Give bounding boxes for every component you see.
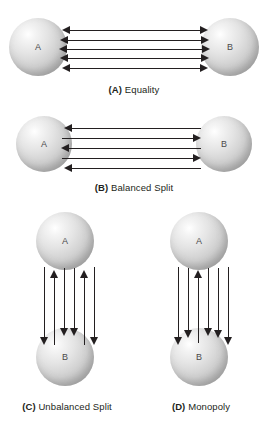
figure-root: { "figure": { "node_labels": {"a": "A", …	[0, 0, 268, 430]
arrow-shaft	[62, 158, 194, 159]
arrow-shaft	[62, 138, 194, 139]
node-b-label: B	[36, 352, 94, 362]
arrow-shaft	[67, 40, 202, 41]
panel-c-title: Unbalanced Split	[38, 401, 111, 412]
flow-arrow-a-to-b	[214, 268, 223, 338]
node-b-label: B	[196, 139, 252, 149]
arrow-shaft	[44, 267, 45, 338]
arrow-shaft	[198, 277, 199, 343]
flow-arrow-b-to-a	[64, 164, 201, 173]
panel-b: A B (B) Balanced Split	[0, 104, 268, 204]
flow-arrow-a-to-b	[40, 267, 49, 345]
panel-a-tag: (A)	[109, 84, 123, 95]
arrowhead-down-icon	[174, 337, 182, 345]
arrow-shaft	[54, 277, 55, 345]
node-a-label: A	[36, 236, 94, 246]
arrowhead-right-icon	[200, 64, 208, 72]
arrow-shaft	[228, 267, 229, 338]
panel-c-tag: (C)	[22, 401, 36, 412]
arrow-shaft	[68, 148, 201, 149]
arrowhead-down-icon	[40, 337, 48, 345]
flow-arrow-b-to-a	[194, 270, 203, 343]
arrowhead-down-icon	[70, 328, 78, 336]
arrow-shaft	[69, 68, 201, 69]
arrowhead-down-icon	[204, 328, 212, 336]
flow-arrow-a-to-b	[70, 268, 79, 336]
flow-arrow-b-to-a	[50, 270, 59, 345]
arrow-shaft	[66, 49, 203, 50]
arrowhead-down-icon	[90, 337, 98, 345]
arrow-shaft	[178, 267, 179, 338]
node-a-sphere: A	[36, 212, 94, 270]
arrow-shaft	[208, 268, 209, 329]
flow-arrow-a-to-b	[62, 154, 201, 163]
arrow-shaft	[69, 30, 201, 31]
arrowhead-right-icon	[193, 154, 201, 162]
node-a-sphere: A	[170, 212, 228, 270]
panel-d-title: Monopoly	[188, 401, 230, 412]
arrowhead-right-icon	[200, 26, 208, 34]
flow-arrow-a-to-b	[62, 134, 201, 143]
flow-arrow-bidirectional	[62, 26, 208, 35]
panel-a: A B (A) Equality	[0, 0, 268, 104]
arrowhead-down-icon	[184, 330, 192, 338]
arrow-shaft	[94, 267, 95, 338]
flow-arrow-a-to-b	[174, 267, 183, 345]
arrow-shaft	[67, 58, 202, 59]
panel-b-tag: (B)	[95, 182, 109, 193]
arrow-shaft	[71, 128, 201, 129]
arrow-shaft	[64, 268, 65, 329]
arrowhead-right-icon	[202, 45, 210, 53]
flow-arrow-bidirectional	[62, 64, 208, 73]
panel-a-caption: (A) Equality	[0, 84, 268, 95]
panel-a-title: Equality	[125, 84, 160, 95]
arrowhead-right-icon	[193, 134, 201, 142]
arrow-shaft	[84, 277, 85, 345]
flow-arrow-b-to-a	[80, 270, 89, 345]
arrowhead-right-icon	[201, 36, 209, 44]
panel-c-caption: (C) Unbalanced Split	[0, 401, 134, 412]
flow-arrow-a-to-b	[60, 268, 69, 336]
node-a-label: A	[170, 236, 228, 246]
panel-d-tag: (D)	[172, 401, 186, 412]
node-b-label: B	[170, 352, 228, 362]
flow-arrow-bidirectional	[59, 45, 210, 54]
panel-c: A B (C) Unbalanced Split	[0, 204, 134, 430]
flow-arrow-a-to-b	[224, 267, 233, 345]
node-b-sphere: B	[196, 116, 252, 172]
arrowhead-down-icon	[214, 330, 222, 338]
panel-d-caption: (D) Monopoly	[134, 401, 268, 412]
flow-arrow-a-to-b	[90, 267, 99, 345]
panel-b-caption: (B) Balanced Split	[0, 182, 268, 193]
flow-arrow-bidirectional	[60, 54, 209, 63]
panel-b-title: Balanced Split	[111, 182, 173, 193]
arrow-shaft	[71, 168, 201, 169]
arrow-shaft	[188, 268, 189, 331]
panel-d: A B (D) Monopoly	[134, 204, 268, 430]
flow-arrow-b-to-a	[61, 144, 201, 153]
flow-arrow-b-to-a	[64, 124, 201, 133]
arrowhead-down-icon	[224, 337, 232, 345]
arrow-shaft	[218, 268, 219, 331]
arrowhead-down-icon	[60, 328, 68, 336]
flow-arrow-a-to-b	[184, 268, 193, 338]
arrow-shaft	[74, 268, 75, 329]
arrowhead-right-icon	[201, 54, 209, 62]
flow-arrow-bidirectional	[60, 36, 209, 45]
flow-arrow-a-to-b	[204, 268, 213, 336]
